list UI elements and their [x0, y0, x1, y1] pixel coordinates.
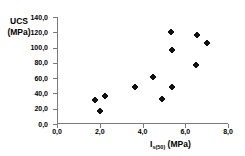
y-axis-tick-label: 20,0 [18, 105, 48, 112]
x-axis-title-unit: (MPa) [168, 139, 191, 149]
x-axis-title: Is(50) (MPa) [150, 139, 191, 150]
x-axis-tick-label: 4,0 [130, 128, 156, 135]
data-point-marker [170, 48, 174, 52]
data-point-marker [151, 75, 155, 79]
data-point-marker [103, 94, 107, 98]
data-point-marker [194, 63, 198, 67]
y-axis-tick-label: 80,0 [18, 59, 48, 66]
y-axis-tick-label: 0,0 [18, 121, 48, 128]
scatter-chart-figure: UCS (MPa) 0,020,040,060,080,0100,0120,01… [0, 0, 245, 156]
data-point-marker [195, 33, 199, 37]
data-point-marker [205, 41, 209, 45]
y-axis-tick-label: 100,0 [18, 44, 48, 51]
x-axis-tick-label: 2,0 [87, 128, 113, 135]
x-axis-tick-label: 0,0 [44, 128, 70, 135]
y-axis-tick-label: 60,0 [18, 75, 48, 82]
data-point-marker [98, 109, 102, 113]
data-point-marker [133, 85, 137, 89]
x-axis-tick-label: 6,0 [172, 128, 198, 135]
x-axis-tick-label: 8,0 [215, 128, 241, 135]
data-point-marker [170, 85, 174, 89]
data-point-marker [93, 98, 97, 102]
data-points-layer [57, 17, 228, 124]
y-axis-tick-label: 40,0 [18, 90, 48, 97]
y-axis-tick-label: 140,0 [18, 14, 48, 21]
data-point-marker [169, 30, 173, 34]
x-axis-title-subscript: s(50) [152, 144, 165, 150]
data-point-marker [160, 97, 164, 101]
y-axis-tick-label: 120,0 [18, 29, 48, 36]
